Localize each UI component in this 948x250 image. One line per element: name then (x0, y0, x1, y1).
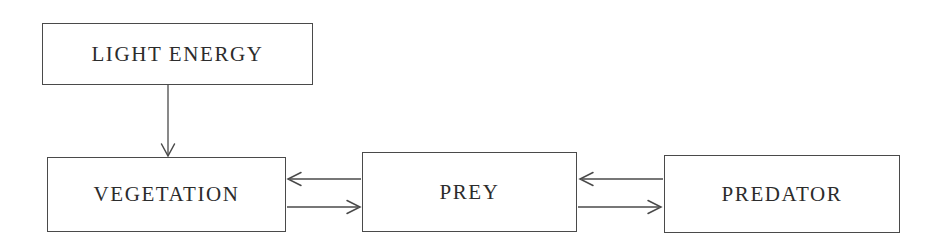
arrow-light-energy-to-vegetation (162, 85, 175, 156)
node-vegetation: VEGETATION (47, 157, 286, 232)
arrow-predator-to-prey (580, 173, 663, 186)
node-prey: PREY (362, 152, 577, 232)
arrow-prey-to-predator (578, 201, 661, 214)
node-prey-label: PREY (439, 182, 499, 203)
node-light-energy-label: LIGHT ENERGY (91, 44, 263, 65)
node-predator: PREDATOR (664, 155, 900, 233)
node-predator-label: PREDATOR (722, 184, 843, 205)
node-vegetation-label: VEGETATION (93, 184, 239, 205)
node-light-energy: LIGHT ENERGY (42, 23, 313, 85)
arrow-vegetation-to-prey (287, 201, 360, 214)
arrow-prey-to-vegetation (288, 173, 361, 186)
diagram-canvas: LIGHT ENERGY VEGETATION PREY PREDATOR (0, 0, 948, 250)
